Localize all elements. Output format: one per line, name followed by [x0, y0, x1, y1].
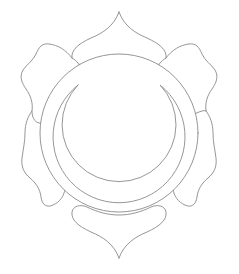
lotus-chakra-illustration [0, 0, 239, 274]
